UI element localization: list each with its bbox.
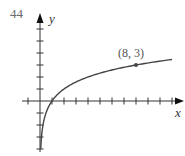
x-axis-arrow-icon [175,98,184,105]
log-curve [41,59,172,149]
log-graph: (8, 3) y x [0,0,185,156]
x-axis-label: x [174,105,181,120]
point-label: (8, 3) [118,46,144,60]
y-axis-label: y [47,11,55,26]
marked-point [134,63,138,67]
y-axis-arrow-icon [37,13,44,23]
